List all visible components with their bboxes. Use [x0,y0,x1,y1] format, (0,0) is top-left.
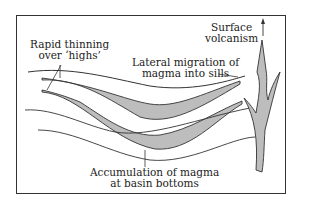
label-rapid-thinning: Rapid thinning over ‘highs’ [30,39,109,61]
volcanism-arrowhead [261,18,265,24]
label-accumulation: Accumulation of magma at basin bottoms [90,167,219,189]
label-rapid-thinning-line2: over ‘highs’ [30,50,109,61]
label-surface-volcanism-line2: volcanism [205,33,258,44]
label-accumulation-line2: at basin bottoms [90,178,219,189]
label-lateral-migration-line2: magma into sills [132,68,239,79]
label-lateral-migration: Lateral migration of magma into sills [132,57,239,79]
feeder-dyke [244,40,280,172]
thinning-arrow-1 [47,65,61,90]
label-surface-volcanism: Surface volcanism [205,22,258,44]
